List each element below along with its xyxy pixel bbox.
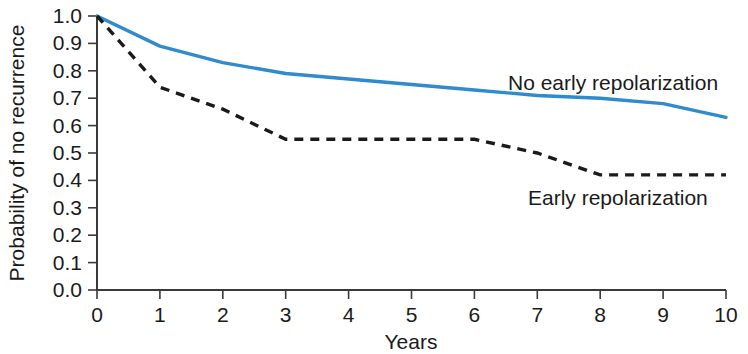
x-tick-label: 0 (91, 303, 103, 326)
x-tick-label: 6 (469, 303, 481, 326)
y-tick-label: 0.6 (53, 114, 82, 137)
x-axis-tick-labels: 0 1 2 3 4 5 6 7 8 9 10 (91, 303, 738, 326)
series-annotation-early-repolarization: Early repolarization (528, 186, 708, 209)
x-axis-title: Years (385, 330, 438, 353)
series-annotation-no-early-repolarization: No early repolarization (508, 71, 718, 94)
x-tick-label: 2 (217, 303, 229, 326)
series-line-early-repolarization (97, 16, 726, 175)
survival-curve-chart: Probability of no recurrence 0.0 0.1 0.2… (0, 0, 748, 354)
y-tick-label: 0.5 (53, 141, 82, 164)
y-tick-label: 0.8 (53, 59, 82, 82)
x-tick-label: 3 (280, 303, 292, 326)
chart-container: Probability of no recurrence 0.0 0.1 0.2… (0, 0, 748, 354)
y-tick-label: 0.4 (53, 168, 83, 191)
x-axis-ticks (97, 290, 726, 299)
series-line-no-early-repolarization (97, 16, 726, 117)
x-tick-label: 10 (714, 303, 737, 326)
y-tick-label: 1.0 (53, 4, 82, 27)
x-tick-label: 9 (657, 303, 669, 326)
y-tick-label: 0.3 (53, 196, 82, 219)
y-tick-label: 0.1 (53, 251, 82, 274)
x-tick-label: 4 (343, 303, 355, 326)
y-axis-ticks (88, 16, 97, 290)
y-tick-label: 0.9 (53, 31, 82, 54)
y-tick-label: 0.7 (53, 86, 82, 109)
y-axis-title: Probability of no recurrence (5, 25, 28, 282)
x-tick-label: 1 (154, 303, 166, 326)
x-tick-label: 7 (531, 303, 543, 326)
y-tick-label: 0.2 (53, 223, 82, 246)
y-tick-label: 0.0 (53, 278, 82, 301)
x-tick-label: 5 (406, 303, 418, 326)
x-tick-label: 8 (594, 303, 606, 326)
y-axis-tick-labels: 0.0 0.1 0.2 0.3 0.4 0.5 0.6 0.7 0.8 0.9 … (53, 4, 83, 301)
